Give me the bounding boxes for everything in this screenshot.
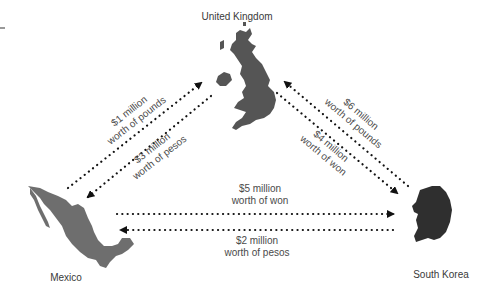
south-korea-map	[412, 186, 452, 242]
flow-currency: worth of won	[215, 195, 305, 207]
flow-label-mx-to-kr: $5 million worth of won	[215, 183, 305, 207]
flow-amount: $2 million	[212, 235, 302, 247]
country-label-south-korea: South Korea	[413, 269, 469, 280]
country-label-mexico: Mexico	[50, 272, 82, 283]
flow-label-kr-to-mx: $2 million worth of pesos	[212, 235, 302, 259]
uk-map	[216, 22, 276, 130]
country-label-uk: United Kingdom	[201, 11, 272, 22]
flow-amount: $5 million	[215, 183, 305, 195]
mexico-map	[28, 186, 134, 268]
flow-currency: worth of pesos	[212, 247, 302, 259]
